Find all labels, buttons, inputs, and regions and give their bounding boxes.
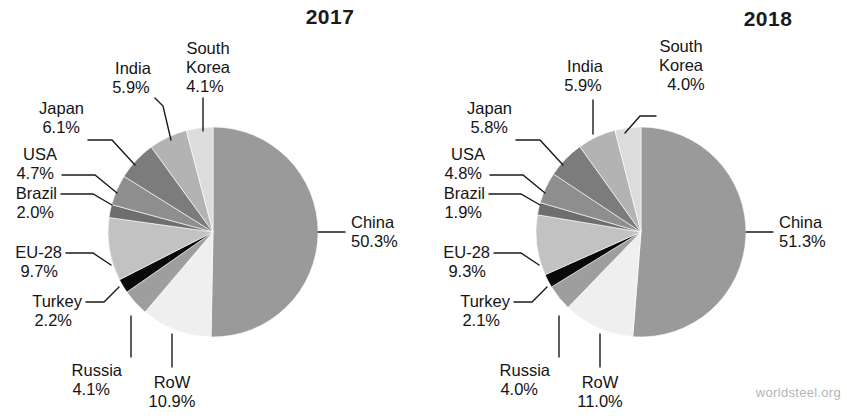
label-south-korea-value: 4.0% (667, 75, 705, 93)
label-row-name: RoW (154, 373, 191, 391)
chart-canvas: 2017 China 50.3% RoW 10.9% (0, 0, 847, 416)
label-row-value: 11.0% (577, 392, 623, 410)
right-chart-title: 2018 (744, 7, 793, 30)
left-pie-chart-2017: 2017 China 50.3% RoW 10.9% (15, 5, 398, 410)
label-south-korea-name-line2: Korea (659, 56, 704, 74)
pie-slice-china (633, 127, 746, 337)
right-pie-chart-2018: 2018 China 51.3% RoW 11.0% Russia (443, 7, 826, 410)
left-pie-slices (108, 127, 318, 337)
label-usa-value: 4.8% (444, 164, 482, 182)
label-usa-name: USA (451, 145, 485, 163)
label-brazil-name: Brazil (444, 184, 485, 202)
label-eu28-name: EU-28 (15, 243, 62, 261)
leader-line-japan (88, 140, 135, 165)
leader-line-india (155, 98, 171, 140)
pie-slice-china (211, 127, 318, 337)
label-japan-value: 5.8% (470, 118, 508, 136)
label-russia-value: 4.1% (72, 380, 110, 398)
label-brazil-value: 1.9% (444, 203, 482, 221)
label-china-name: China (779, 213, 823, 231)
label-eu28-value: 9.3% (448, 262, 486, 280)
label-eu28-name: EU-28 (443, 243, 490, 261)
label-eu28-value: 9.7% (20, 262, 58, 280)
label-usa-name: USA (23, 145, 57, 163)
label-brazil-name: Brazil (16, 184, 57, 202)
leader-line-eu28 (494, 253, 539, 265)
label-south-korea-value: 4.1% (186, 77, 224, 95)
leader-line-turkey (514, 287, 547, 302)
label-south-korea-name-line2: Korea (186, 58, 231, 76)
leader-line-usa (490, 175, 545, 193)
label-turkey-value: 2.2% (34, 311, 72, 329)
dual-pie-chart-svg: 2017 China 50.3% RoW 10.9% (0, 0, 847, 416)
label-turkey-name: Turkey (460, 292, 511, 310)
label-brazil-value: 2.0% (16, 203, 54, 221)
label-india-name: India (115, 59, 152, 77)
label-turkey-value: 2.1% (462, 311, 500, 329)
leader-line-japan (516, 140, 563, 165)
label-russia-value: 4.0% (500, 380, 538, 398)
label-row-value: 10.9% (149, 392, 196, 410)
leader-line-brazil (489, 194, 540, 205)
label-turkey-name: Turkey (32, 292, 83, 310)
worldsteel-watermark: worldsteel.org (755, 385, 841, 400)
label-india-value: 5.9% (112, 78, 150, 96)
label-usa-value: 4.7% (16, 164, 54, 182)
label-russia-name: Russia (72, 361, 123, 379)
label-russia-name: Russia (500, 361, 551, 379)
label-south-korea-name-line1: South (659, 37, 702, 55)
leader-line-usa (62, 175, 117, 193)
label-japan-value: 6.1% (42, 118, 80, 136)
label-japan-name: Japan (39, 99, 84, 117)
left-chart-title: 2017 (306, 5, 355, 28)
label-japan-name: Japan (467, 99, 512, 117)
leader-line-brazil (61, 194, 112, 205)
label-south-korea-name-line1: South (186, 39, 229, 57)
right-pie-slices (536, 127, 746, 337)
label-china-value: 50.3% (351, 232, 398, 250)
label-row-name: RoW (582, 373, 619, 391)
leader-line-turkey (86, 287, 119, 302)
label-india-name: India (567, 57, 604, 75)
label-china-name: China (351, 213, 395, 231)
label-china-value: 51.3% (779, 232, 826, 250)
leader-line-eu28 (66, 253, 111, 265)
label-india-value: 5.9% (564, 76, 602, 94)
